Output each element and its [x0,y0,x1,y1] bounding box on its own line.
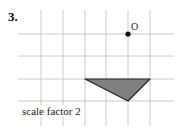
center-of-enlargement-point [125,31,130,36]
center-point-label: O [131,21,138,32]
scale-factor-caption: scale factor 2 [21,105,82,117]
shaded-triangle [85,79,150,101]
